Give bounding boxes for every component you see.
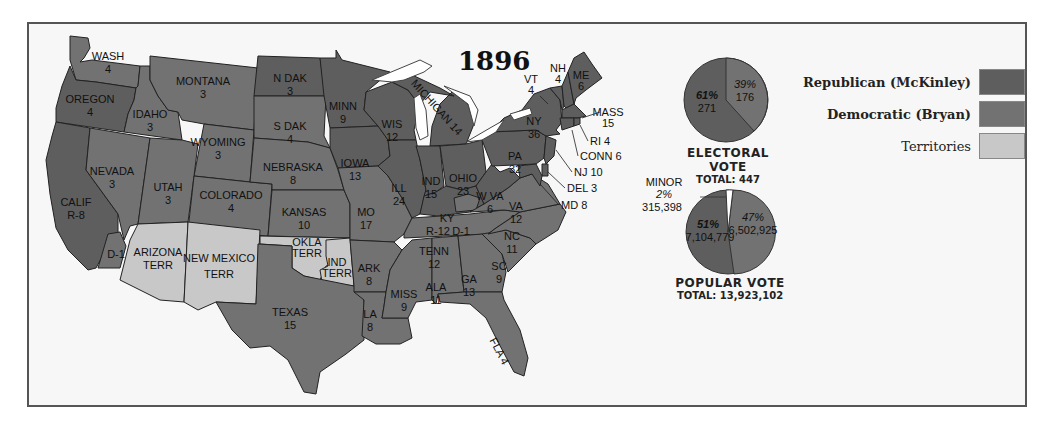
svg-text:15: 15 bbox=[425, 188, 437, 200]
svg-text:3: 3 bbox=[215, 149, 221, 161]
svg-text:4: 4 bbox=[228, 202, 234, 214]
svg-text:3: 3 bbox=[200, 88, 206, 100]
svg-text:COLORADO: COLORADO bbox=[200, 189, 263, 201]
state-ri bbox=[574, 118, 580, 126]
svg-text:TERR: TERR bbox=[143, 259, 173, 271]
svg-text:6,502,925: 6,502,925 bbox=[729, 224, 778, 236]
svg-text:17: 17 bbox=[360, 219, 372, 231]
svg-text:15: 15 bbox=[284, 319, 296, 331]
svg-text:8: 8 bbox=[290, 174, 296, 186]
svg-text:4: 4 bbox=[287, 133, 293, 145]
svg-text:TEXAS: TEXAS bbox=[272, 306, 308, 318]
svg-text:MONTANA: MONTANA bbox=[176, 75, 231, 87]
popular-vote-heading: POPULAR VOTE bbox=[660, 276, 800, 290]
svg-text:NEVADA: NEVADA bbox=[90, 165, 135, 177]
legend-swatch-territories bbox=[979, 133, 1025, 159]
svg-text:4: 4 bbox=[555, 73, 561, 85]
svg-text:32: 32 bbox=[509, 163, 521, 175]
svg-text:36: 36 bbox=[528, 128, 540, 140]
svg-text:KANSAS: KANSAS bbox=[282, 206, 327, 218]
svg-text:271: 271 bbox=[698, 102, 716, 114]
svg-text:UTAH: UTAH bbox=[153, 181, 182, 193]
map-title: 1896 bbox=[458, 46, 530, 76]
svg-text:12: 12 bbox=[386, 131, 398, 143]
svg-text:ARIZONA: ARIZONA bbox=[134, 246, 184, 258]
svg-text:TERR: TERR bbox=[292, 247, 322, 259]
svg-text:MD 8: MD 8 bbox=[561, 199, 587, 211]
svg-text:N DAK: N DAK bbox=[273, 72, 307, 84]
svg-text:315,398: 315,398 bbox=[642, 201, 682, 213]
svg-text:NC: NC bbox=[504, 230, 520, 242]
state-nj bbox=[544, 136, 556, 164]
electoral-vote-total: TOTAL: 447 bbox=[666, 174, 790, 185]
svg-text:SC: SC bbox=[491, 260, 506, 272]
svg-text:9: 9 bbox=[401, 301, 407, 313]
legend: Republican (McKinley) Democratic (Bryan)… bbox=[800, 67, 1025, 163]
svg-text:12: 12 bbox=[428, 258, 440, 270]
legend-item-territories: Territories bbox=[800, 131, 1025, 161]
svg-text:9: 9 bbox=[340, 113, 346, 125]
svg-text:TERR: TERR bbox=[322, 267, 352, 279]
svg-text:R-8: R-8 bbox=[67, 209, 85, 221]
svg-text:6: 6 bbox=[487, 203, 493, 215]
legend-item-republican: Republican (McKinley) bbox=[800, 67, 1025, 97]
legend-label: Republican (McKinley) bbox=[803, 75, 971, 90]
svg-text:9: 9 bbox=[496, 273, 502, 285]
svg-text:39%: 39% bbox=[734, 78, 756, 90]
svg-text:WYOMING: WYOMING bbox=[191, 136, 246, 148]
svg-text:NY: NY bbox=[526, 115, 542, 127]
state-wyoming bbox=[194, 124, 254, 182]
legend-swatch-democratic bbox=[979, 101, 1025, 127]
svg-text:IDAHO: IDAHO bbox=[133, 108, 168, 120]
svg-text:15: 15 bbox=[602, 117, 614, 129]
svg-text:IND: IND bbox=[422, 175, 441, 187]
legend-label: Territories bbox=[901, 139, 971, 154]
svg-text:RI 4: RI 4 bbox=[590, 135, 610, 147]
svg-text:8: 8 bbox=[366, 275, 372, 287]
svg-text:13: 13 bbox=[349, 170, 361, 182]
legend-swatch-republican bbox=[979, 69, 1025, 95]
svg-text:VA: VA bbox=[509, 200, 524, 212]
svg-text:ALA: ALA bbox=[426, 281, 447, 293]
svg-text:12: 12 bbox=[510, 213, 522, 225]
legend-item-democratic: Democratic (Bryan) bbox=[800, 99, 1025, 129]
svg-text:176: 176 bbox=[736, 91, 754, 103]
svg-text:23: 23 bbox=[457, 185, 469, 197]
svg-text:MISS: MISS bbox=[391, 288, 418, 300]
svg-text:D-1: D-1 bbox=[452, 225, 470, 237]
svg-text:CONN 6: CONN 6 bbox=[580, 150, 622, 162]
svg-text:LA: LA bbox=[363, 308, 377, 320]
svg-text:2%: 2% bbox=[655, 188, 672, 200]
svg-text:ILL: ILL bbox=[391, 182, 406, 194]
svg-text:4: 4 bbox=[105, 63, 111, 75]
state-newmexico bbox=[184, 222, 260, 310]
svg-text:3: 3 bbox=[109, 178, 115, 190]
svg-text:W VA: W VA bbox=[476, 190, 504, 202]
svg-text:3: 3 bbox=[147, 121, 153, 133]
svg-text:TENN: TENN bbox=[419, 245, 449, 257]
svg-text:DEL 3: DEL 3 bbox=[567, 182, 597, 194]
svg-text:NJ 10: NJ 10 bbox=[574, 166, 603, 178]
svg-text:61%: 61% bbox=[696, 89, 718, 101]
svg-text:R-12: R-12 bbox=[426, 225, 450, 237]
svg-text:WASH: WASH bbox=[92, 50, 125, 62]
svg-text:3: 3 bbox=[287, 85, 293, 97]
svg-text:7,104,779: 7,104,779 bbox=[686, 231, 735, 243]
svg-text:TERR: TERR bbox=[204, 268, 234, 280]
svg-text:4: 4 bbox=[87, 106, 93, 118]
svg-text:4: 4 bbox=[528, 84, 534, 96]
svg-text:D-1: D-1 bbox=[107, 248, 125, 260]
svg-text:3: 3 bbox=[165, 194, 171, 206]
state-del bbox=[542, 164, 548, 176]
svg-text:MINN: MINN bbox=[329, 100, 357, 112]
svg-text:11: 11 bbox=[430, 294, 441, 306]
svg-text:10: 10 bbox=[298, 219, 310, 231]
svg-text:13: 13 bbox=[463, 286, 475, 298]
svg-text:IOWA: IOWA bbox=[341, 157, 371, 169]
svg-text:GA: GA bbox=[461, 273, 478, 285]
svg-text:S DAK: S DAK bbox=[273, 120, 307, 132]
svg-text:ARK: ARK bbox=[358, 262, 381, 274]
svg-text:8: 8 bbox=[367, 321, 373, 333]
popular-vote-total: TOTAL: 13,923,102 bbox=[660, 290, 800, 301]
state-conn bbox=[560, 118, 574, 130]
